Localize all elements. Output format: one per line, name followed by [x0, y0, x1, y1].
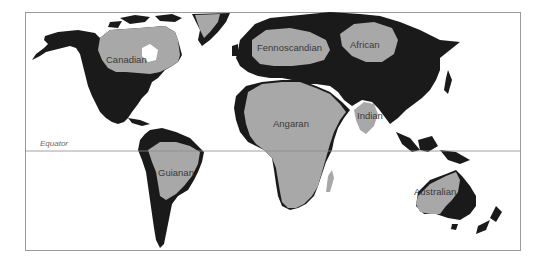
label-guianan: Guianan — [158, 167, 194, 178]
label-canadian: Canadian — [106, 54, 147, 65]
label-angaran: African — [350, 39, 380, 50]
madagascar — [326, 170, 334, 192]
label-equator: Equator — [40, 139, 68, 148]
label-fennoscandian: Fennoscandian — [257, 42, 322, 53]
label-african: Angaran — [273, 118, 309, 129]
canadian-shield — [98, 26, 180, 74]
label-indian: Indian — [357, 110, 383, 121]
world-map: Canadian Guianan Fennoscandian African I… — [0, 0, 545, 257]
label-australian: Australian — [414, 186, 456, 197]
